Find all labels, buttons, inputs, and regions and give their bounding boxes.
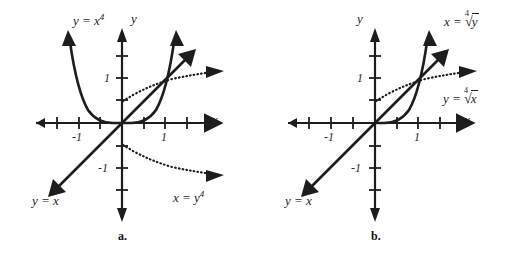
x-tick-label-one: 1 xyxy=(161,131,167,143)
y-axis-arrow-up xyxy=(117,28,127,42)
x-axis-arrow-left xyxy=(288,118,297,128)
y-axis-arrow-up xyxy=(370,28,380,42)
dotted-arrow-upper-right xyxy=(206,66,224,78)
y-tick-label-neg-one: -1 xyxy=(98,162,108,174)
x-axis-arrow-left xyxy=(36,118,45,128)
y-axis xyxy=(116,28,128,222)
label-y-equals-x: y = x xyxy=(32,194,59,207)
figure-two-panel-inverse-functions: y = x4 y x -1 1 1 -1 y = x x = y4 a. xyxy=(0,0,516,254)
y-tick-label-one: 1 xyxy=(104,72,110,84)
curve-x-equals-y-fourth-lower xyxy=(123,145,212,174)
radical-index: 4 xyxy=(464,87,468,95)
panel-a-plot xyxy=(0,0,258,254)
label-x-equals-y-fourth: x = y4 xyxy=(173,190,204,204)
x-tick-label-one: 1 xyxy=(414,131,420,143)
y-axis xyxy=(369,28,381,222)
label-y-equals-x-fourth: y = x4 xyxy=(73,13,104,27)
dotted-arrow-lower-right xyxy=(206,170,224,182)
x-axis-label: x xyxy=(212,113,218,126)
y-axis-arrow-down xyxy=(370,208,380,222)
radicand: x xyxy=(471,90,478,106)
y-axis-label: y xyxy=(131,12,137,25)
root-curve-arrow xyxy=(423,30,437,46)
y-axis-label: y xyxy=(357,12,363,25)
panel-b: y x -1 1 1 -1 x = 4√y y = 4√x y = x b. xyxy=(258,0,516,254)
x-tick-label-neg-one: -1 xyxy=(324,131,334,143)
panel-a-caption: a. xyxy=(118,230,127,242)
quartic-arrow-left xyxy=(62,30,76,46)
label-y-equals-fourth-root-x: y = 4√x xyxy=(443,92,478,106)
y-tick-label-one: 1 xyxy=(357,72,363,84)
label-x-equals-fourth-root-y: x = 4√y xyxy=(444,15,479,29)
panel-b-caption: b. xyxy=(371,230,381,242)
radical-index: 4 xyxy=(465,10,469,18)
radicand: y xyxy=(472,13,479,29)
quartic-arrow-right xyxy=(170,30,184,46)
y-axis-arrow-down xyxy=(117,208,127,222)
panel-a: y = x4 y x -1 1 1 -1 y = x x = y4 a. xyxy=(0,0,258,254)
panel-b-plot xyxy=(258,0,516,254)
x-tick-label-neg-one: -1 xyxy=(72,131,82,143)
y-tick-label-neg-one: -1 xyxy=(351,162,361,174)
x-axis-label: x xyxy=(464,113,470,126)
label-y-equals-x: y = x xyxy=(285,194,312,207)
x-axis xyxy=(288,117,458,129)
curve-x-equals-fourth-root-y xyxy=(375,42,427,123)
dotted-arrow-right xyxy=(459,66,477,78)
